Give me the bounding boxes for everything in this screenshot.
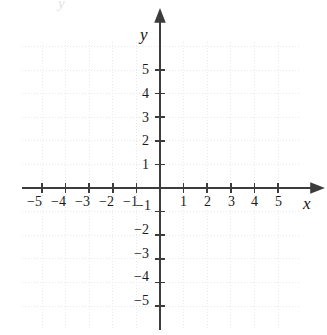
y-tick-label: −5 <box>134 294 149 308</box>
y-tick-label: −3 <box>134 247 149 261</box>
x-tick-label: 5 <box>275 195 282 209</box>
grid-lines-group <box>22 42 301 328</box>
x-tick-label: 2 <box>204 195 211 209</box>
x-tick-label: −3 <box>75 195 90 209</box>
y-tick-label: −1 <box>136 199 151 213</box>
y-tick-label: −4 <box>134 270 149 284</box>
y-tick-label: 5 <box>142 63 149 77</box>
x-tick-label: −2 <box>99 195 114 209</box>
x-tick-label: 3 <box>228 195 235 209</box>
coordinate-grid-svg <box>0 0 327 335</box>
y-axis-label: y <box>140 26 148 43</box>
x-tick-label: 1 <box>180 195 187 209</box>
x-tick-label: −5 <box>27 195 42 209</box>
x-axis-label: x <box>303 195 311 212</box>
axis-lines-group <box>22 21 312 330</box>
y-tick-label: 3 <box>142 111 149 125</box>
y-tick-label: 4 <box>142 87 149 101</box>
x-tick-label: 4 <box>251 195 258 209</box>
x-tick-label: −4 <box>51 195 66 209</box>
coordinate-plane-figure: y −5−4−3−2−112345 54321−1−2−3−4−5 x y <box>0 0 327 335</box>
y-tick-label: −2 <box>134 223 149 237</box>
y-tick-label: 1 <box>142 158 149 172</box>
y-tick-label: 2 <box>142 134 149 148</box>
